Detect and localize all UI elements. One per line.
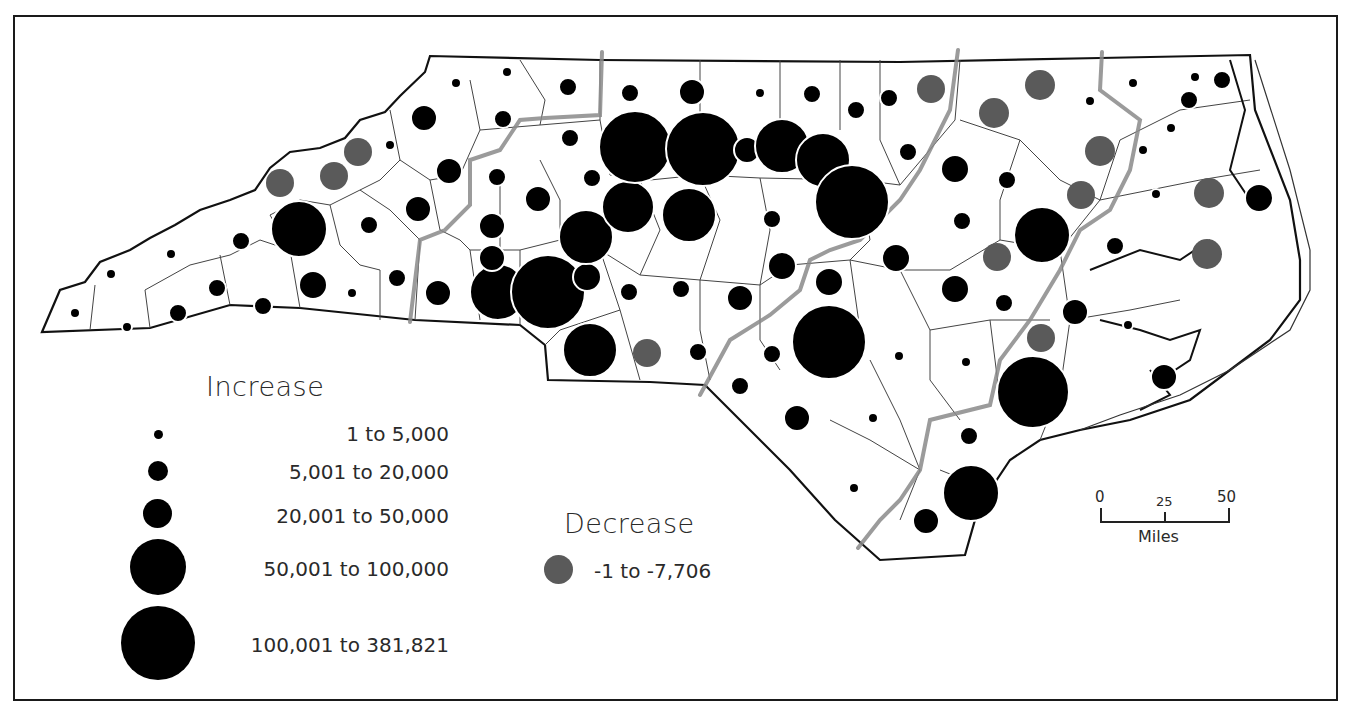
legend-symbol-tiny [154,430,163,439]
scale-tick-50: 50 [1217,488,1236,506]
legend-label-decrease: -1 to -7,706 [594,559,711,583]
scale-tick-25: 25 [1156,494,1173,509]
legend-decrease-title: Decrease [564,508,695,539]
legend-label-small: 5,001 to 20,000 [289,460,449,484]
legend-label-large: 50,001 to 100,000 [264,557,449,581]
north-carolina-map [0,0,1346,711]
scale-bar [1101,508,1229,522]
legend-symbol-medium [143,499,172,528]
scale-tick-0: 0 [1095,488,1105,506]
legend-increase-title: Increase [206,371,324,402]
legend-label-xlarge: 100,001 to 381,821 [251,633,449,657]
legend-symbol-xlarge [121,606,195,680]
legend-symbol-decrease [544,555,573,584]
legend-symbol-small [148,461,168,481]
legend-label-medium: 20,001 to 50,000 [276,504,449,528]
legend-symbol-large [130,539,186,595]
legend-label-tiny: 1 to 5,000 [346,422,449,446]
scale-unit-label: Miles [1138,527,1179,546]
